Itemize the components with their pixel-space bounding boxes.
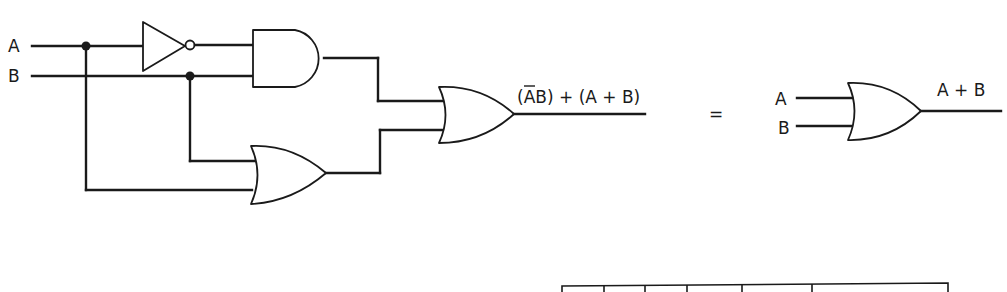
junction-dot-b (186, 72, 195, 81)
or-gate-icon (251, 146, 326, 204)
and-gate-icon (253, 30, 319, 87)
not-gate-icon (143, 22, 253, 71)
wire-or-out (326, 130, 443, 173)
junction-dot-a (82, 42, 91, 51)
wire-a (32, 46, 252, 190)
equivalent-or-gate-icon (848, 83, 921, 140)
wire-b (32, 76, 256, 161)
right-output-label: A + B (937, 80, 985, 100)
equals-sign: = (709, 104, 723, 124)
right-input-label-a: A (775, 89, 787, 109)
logic-diagram: A B (AB) + (A + (0, 0, 1007, 292)
output-expression: (AB) + (A + B) (517, 87, 640, 107)
final-or-gate-icon (439, 87, 514, 143)
wire-and-out (324, 58, 443, 101)
right-input-label-b: B (778, 118, 790, 138)
input-label-b: B (8, 66, 20, 86)
input-label-a: A (8, 36, 20, 56)
table-fragment (562, 283, 948, 292)
